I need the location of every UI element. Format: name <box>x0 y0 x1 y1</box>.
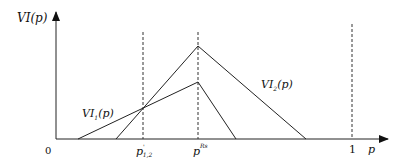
tick-label-p12: p'1,2 <box>136 143 152 158</box>
diagram-canvas: VI(p) p 0 p'1,2 pRs 1 VI1(p) VI2(p) <box>0 0 403 163</box>
tick-label-pRs: pRs <box>193 142 208 158</box>
curve-label-vi2: VI2(p) <box>261 78 293 92</box>
tick-label-one: 1 <box>349 143 356 156</box>
x-axis-label: p <box>368 143 375 156</box>
origin-label: 0 <box>45 145 51 156</box>
curve-vi2 <box>116 46 306 139</box>
curve-label-vi1: VI1(p) <box>82 107 114 121</box>
y-axis-label: VI(p) <box>17 11 48 25</box>
